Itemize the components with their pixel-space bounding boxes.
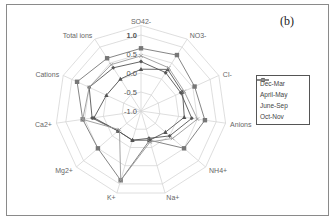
axis-label: Mg2+ (55, 167, 73, 175)
radial-tick-label: -1.0 (124, 107, 137, 116)
axis-label: Cations (35, 71, 59, 78)
legend: Dec-MarApril-MayJune-SepOct-Nov (256, 75, 310, 125)
legend-item: Oct-Nov (260, 111, 306, 122)
legend-item: June-Sep (260, 100, 306, 111)
axis-label: Na+ (166, 194, 179, 201)
legend-item: April-May (260, 89, 306, 100)
radial-tick-label: 1.0 (127, 31, 137, 40)
axis-label: Ca2+ (35, 121, 52, 128)
axis-label: NO3- (190, 32, 207, 39)
axis-label: SO42- (131, 18, 152, 25)
axis-label: Anions (230, 121, 252, 128)
legend-cross-marker-icon (257, 76, 269, 84)
axis-label: Total ions (63, 32, 93, 39)
legend-label: April-May (260, 91, 287, 98)
legend-label: Oct-Nov (260, 113, 284, 120)
radar-grid (56, 26, 225, 194)
axis-label: Cl- (223, 71, 233, 78)
axis-label: K+ (107, 194, 116, 201)
legend-label: June-Sep (260, 102, 288, 109)
radial-tick-labels: 1.00.50.0-0.5-1.0 (124, 31, 137, 116)
radial-tick-label: -0.5 (124, 88, 137, 97)
axis-label: NH4+ (209, 167, 227, 174)
